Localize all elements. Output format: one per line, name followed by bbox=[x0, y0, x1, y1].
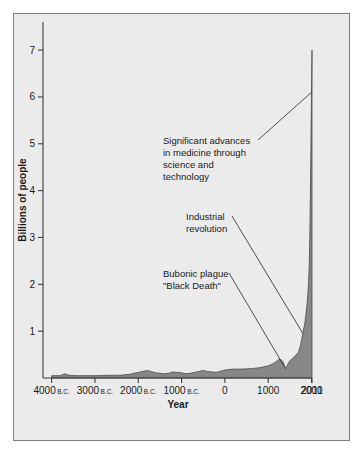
annotation-bubonic-plague: Bubonic plague "Black Death" bbox=[163, 268, 229, 291]
y-tick-label: 4 bbox=[29, 185, 35, 196]
annotation-leader-line bbox=[258, 92, 312, 140]
x-axis-ticks bbox=[52, 378, 312, 383]
population-area-series bbox=[52, 50, 312, 378]
y-tick-label: 5 bbox=[29, 138, 35, 149]
x-axis-title: Year bbox=[167, 399, 188, 410]
annotation-industrial-revolution: Industrial revolution bbox=[186, 211, 227, 234]
annotation-leader-lines bbox=[229, 92, 312, 368]
annotation-line: science and bbox=[163, 159, 214, 170]
annotation-line: technology bbox=[163, 171, 209, 182]
x-tick-label: 2011 bbox=[301, 385, 323, 396]
annotation-line: "Black Death" bbox=[163, 280, 221, 291]
annotation-leader-line bbox=[229, 273, 286, 369]
x-axis-tick-labels: 4000B.C.3000B.C.2000B.C.1000B.C.01000200… bbox=[33, 385, 323, 396]
population-area-chart: 1234567 4000B.C.3000B.C.2000B.C.1000B.C.… bbox=[0, 0, 363, 454]
y-axis-tick-labels: 1234567 bbox=[29, 45, 35, 337]
annotation-advances-in-medicine: Significant advances in medicine through… bbox=[163, 135, 250, 182]
figure-container: 1234567 4000B.C.3000B.C.2000B.C.1000B.C.… bbox=[0, 0, 363, 454]
y-tick-label: 3 bbox=[29, 232, 35, 243]
y-tick-label: 7 bbox=[29, 45, 35, 56]
annotation-leader-line bbox=[232, 216, 303, 334]
y-tick-label: 2 bbox=[29, 279, 35, 290]
y-axis-ticks bbox=[38, 50, 43, 331]
annotation-line: Significant advances bbox=[163, 135, 250, 146]
x-tick-label: 3000B.C. bbox=[77, 385, 114, 396]
y-axis-title: Billions of people bbox=[17, 158, 28, 242]
plot-area bbox=[43, 22, 312, 378]
y-tick-label: 1 bbox=[29, 326, 35, 337]
x-tick-label: 4000B.C. bbox=[33, 385, 70, 396]
x-tick-label: 0 bbox=[222, 385, 228, 396]
y-tick-label: 6 bbox=[29, 91, 35, 102]
x-tick-label: 1000 bbox=[257, 385, 280, 396]
annotation-line: Industrial bbox=[186, 211, 225, 222]
annotation-line: Bubonic plague bbox=[163, 268, 229, 279]
x-tick-label: 1000B.C. bbox=[163, 385, 200, 396]
x-tick-label: 2000B.C. bbox=[120, 385, 157, 396]
annotation-line: revolution bbox=[186, 223, 227, 234]
annotation-line: in medicine through bbox=[163, 147, 246, 158]
